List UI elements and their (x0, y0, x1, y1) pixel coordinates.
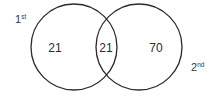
region-second-only-value: 70 (149, 41, 163, 55)
set-second-label-sup: nd (197, 61, 205, 68)
set-first-label: 1st (15, 13, 26, 25)
region-intersection-value: 21 (99, 41, 113, 55)
region-first-only-value: 21 (48, 41, 62, 55)
set-first-label-sup: st (21, 13, 26, 20)
venn-diagram: 21 21 70 1st 2nd (0, 0, 215, 97)
set-second-label: 2nd (191, 61, 205, 73)
